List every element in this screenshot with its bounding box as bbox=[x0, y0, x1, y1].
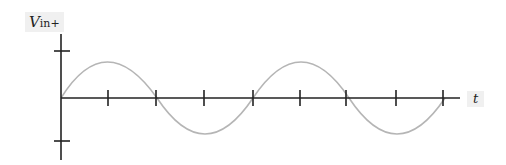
plot-area bbox=[0, 0, 506, 165]
waveform-diagram: Vin+ t bbox=[0, 0, 506, 165]
